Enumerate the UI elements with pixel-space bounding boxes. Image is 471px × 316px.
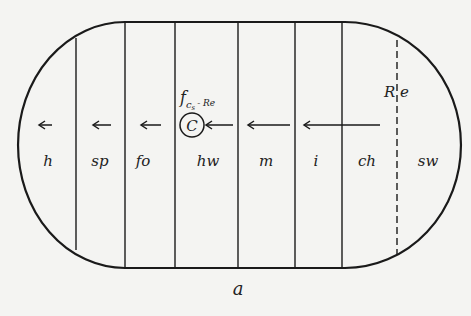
circle-label: C: [186, 117, 198, 135]
zone-label-i: i: [314, 152, 319, 170]
zone-label-fo: fo: [135, 152, 151, 170]
zone-label-h: h: [43, 152, 53, 170]
annotation-label: fcs- Re: [179, 88, 215, 112]
boundary-label-left: R: [383, 83, 395, 101]
arrow-icon: [248, 121, 290, 129]
boundary-label-right: e: [400, 83, 409, 101]
zone-label-m: m: [259, 152, 273, 170]
zone-dividers: [76, 22, 397, 268]
figure-caption: a: [233, 278, 244, 299]
arrow-icon: [206, 121, 233, 129]
zone-label-hw: hw: [197, 152, 220, 170]
zone-labels: h sp fo hw m i ch sw: [43, 152, 438, 170]
zone-label-sw: sw: [418, 152, 439, 170]
zone-label-ch: ch: [358, 152, 376, 170]
outline: [18, 22, 461, 268]
embryo-fate-diagram: C fcs- Re R e h sp fo hw m i ch sw a: [0, 0, 471, 316]
arrow-icon: [141, 121, 161, 129]
zone-label-sp: sp: [91, 152, 109, 170]
arrow-icon: [93, 121, 111, 129]
arrow-icon: [39, 121, 52, 129]
direction-arrows: [39, 121, 380, 129]
